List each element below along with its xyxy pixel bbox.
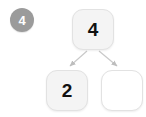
edge-root-to-right (99, 51, 117, 66)
diagram-canvas: 4 4 2 (0, 0, 146, 117)
tree-node-right-child[interactable] (101, 70, 143, 111)
step-number-badge: 4 (10, 8, 34, 32)
tree-node-root[interactable]: 4 (72, 9, 114, 50)
edge-root-to-left (70, 51, 87, 66)
step-number-badge-label: 4 (18, 14, 25, 27)
tree-node-root-label: 4 (88, 19, 99, 41)
tree-node-left-child-label: 2 (62, 80, 73, 102)
tree-node-left-child[interactable]: 2 (46, 70, 88, 111)
